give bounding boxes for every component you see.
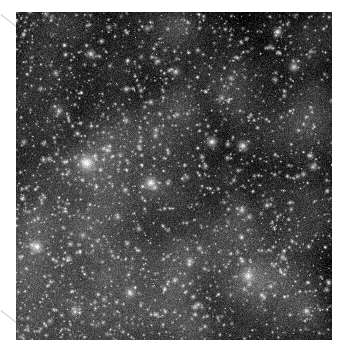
figure-page [0, 0, 348, 354]
star-field-image [16, 12, 332, 340]
star-field-canvas [16, 12, 332, 340]
